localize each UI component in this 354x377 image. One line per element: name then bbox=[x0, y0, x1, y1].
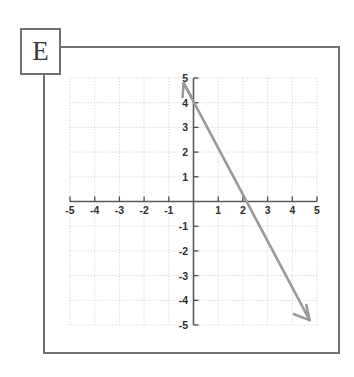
choice-letter: E bbox=[32, 38, 49, 65]
x-tick-label: -3 bbox=[115, 204, 124, 216]
y-tick-label: 3 bbox=[182, 121, 188, 133]
x-tick-label: 3 bbox=[265, 204, 271, 216]
y-tick-label: -1 bbox=[179, 220, 188, 232]
y-tick-label: 2 bbox=[182, 146, 188, 158]
x-tick-label: -4 bbox=[90, 204, 99, 216]
x-tick-label: 5 bbox=[314, 204, 320, 216]
coordinate-graph: -5 -4 -3 -2 -1 1 2 3 4 5 5 4 3 2 1 -1 -2… bbox=[70, 78, 317, 325]
x-tick-label: -1 bbox=[164, 204, 173, 216]
y-tick-label: 4 bbox=[182, 97, 188, 109]
arrowhead-start bbox=[183, 83, 191, 97]
y-tick-label: 1 bbox=[182, 171, 188, 183]
y-tick-label: -3 bbox=[179, 270, 188, 282]
y-tick-label: -2 bbox=[179, 245, 188, 257]
x-tick-label: -5 bbox=[65, 204, 74, 216]
x-tick-label: 2 bbox=[240, 204, 246, 216]
axes bbox=[70, 78, 317, 325]
x-tick-label: -2 bbox=[139, 204, 148, 216]
x-tick-label: 4 bbox=[289, 204, 295, 216]
x-tick-label: 1 bbox=[215, 204, 221, 216]
choice-letter-box[interactable]: E bbox=[20, 28, 61, 75]
y-tick-label: -4 bbox=[179, 294, 188, 306]
worksheet-page: E bbox=[0, 0, 354, 377]
y-tick-label: -5 bbox=[179, 319, 188, 331]
